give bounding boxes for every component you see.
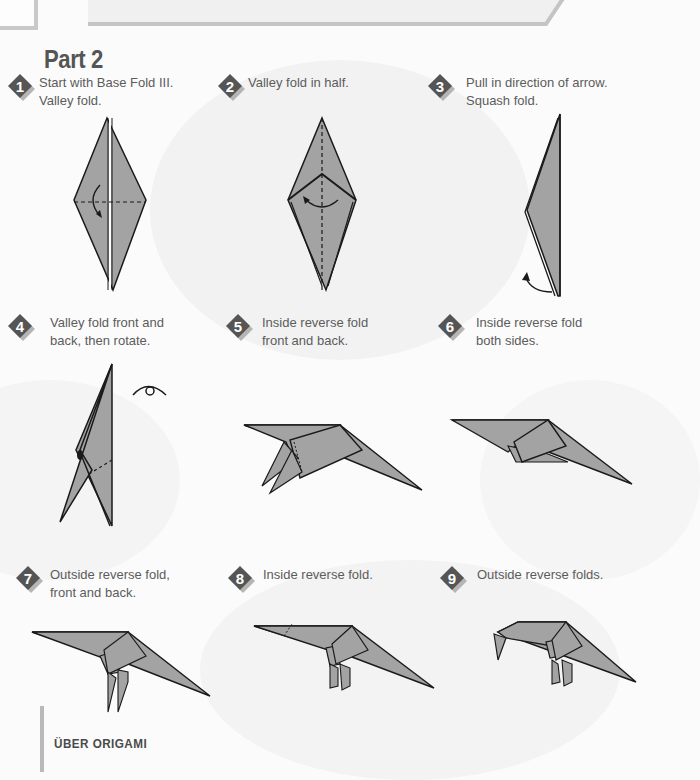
section-title: Part 2 xyxy=(44,44,103,75)
pull-arrow-icon xyxy=(526,278,552,292)
step-9-diagram xyxy=(486,616,642,716)
step-badge: 4 xyxy=(8,314,38,344)
step-badge: 1 xyxy=(8,74,38,104)
footer-accent-bar xyxy=(40,706,44,772)
header-banner xyxy=(88,0,568,30)
step-instruction: Outside reverse fold, front and back. xyxy=(50,566,170,602)
step-badge: 3 xyxy=(428,74,458,104)
step-3-diagram xyxy=(490,100,590,300)
step-badge: 7 xyxy=(16,566,46,596)
step-1-diagram xyxy=(60,110,180,300)
step-badge: 5 xyxy=(226,314,256,344)
step-badge: 8 xyxy=(228,566,258,596)
step-5-diagram xyxy=(240,410,430,500)
step-8-diagram xyxy=(250,620,440,710)
step-instruction: Inside reverse fold. xyxy=(263,566,373,584)
book-title: ÜBER ORIGAMI xyxy=(54,736,147,751)
page-corner-frame xyxy=(0,0,38,30)
step-6-diagram xyxy=(448,412,638,492)
step-instruction: Start with Base Fold III. Valley fold. xyxy=(39,74,173,110)
rotate-eye-icon xyxy=(133,387,166,396)
step-instruction: Valley fold front and back, then rotate. xyxy=(50,314,164,350)
step-badge: 2 xyxy=(218,74,248,104)
step-7-diagram xyxy=(28,626,218,716)
step-badge: 6 xyxy=(438,314,468,344)
step-instruction: Valley fold in half. xyxy=(248,74,349,92)
step-instruction: Inside reverse fold front and back. xyxy=(262,314,368,350)
step-4-diagram xyxy=(40,360,180,530)
step-instruction: Outside reverse folds. xyxy=(477,566,603,584)
step-2-diagram xyxy=(270,110,390,300)
step-badge: 9 xyxy=(440,566,470,596)
step-instruction: Inside reverse fold both sides. xyxy=(476,314,582,350)
